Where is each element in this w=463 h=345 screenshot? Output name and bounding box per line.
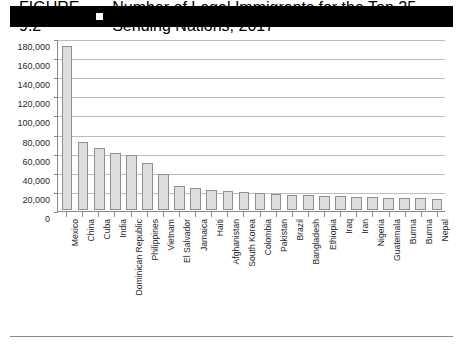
x-tick-slot [284,212,300,217]
y-tick-label: 180,000 [17,42,50,52]
x-label-slot: Colombia [252,219,268,299]
x-tick-mark [276,212,277,217]
bar[interactable] [78,142,89,210]
x-tick-mark [163,212,164,217]
x-tick-slot [74,212,90,217]
x-axis-ticks [58,212,445,217]
x-tick-mark [227,212,228,217]
bar[interactable] [383,198,394,210]
bar-slot [381,40,397,210]
x-tick-slot [252,212,268,217]
bar[interactable] [110,153,121,210]
bar[interactable] [174,186,185,210]
bar[interactable] [158,174,169,210]
x-label-slot: Nigeria [364,219,380,299]
bar[interactable] [399,198,410,210]
bar-series [59,40,445,210]
bar-slot [429,40,445,210]
x-axis-labels: MexicoChinaCubaIndiaDominican RepublicPh… [58,219,445,299]
bar-slot [284,40,300,210]
x-tick-slot [413,212,429,217]
x-label-slot: Philippines [139,219,155,299]
x-label-slot: Pakistan [268,219,284,299]
bar[interactable] [367,197,378,210]
bar-slot [332,40,348,210]
x-label-slot: Afghanistan [219,219,235,299]
x-label-slot: Jamaica [187,219,203,299]
x-label-slot: Vietnam [155,219,171,299]
x-tick-mark [179,212,180,217]
bar[interactable] [351,197,362,210]
bar[interactable] [255,193,266,210]
bar[interactable] [415,198,426,210]
x-label-slot: India [106,219,122,299]
bar-slot [220,40,236,210]
bar-slot [91,40,107,210]
x-tick-slot [300,212,316,217]
bar[interactable] [223,191,234,210]
y-tick-mark [54,174,58,175]
x-tick-slot [268,212,284,217]
bar[interactable] [239,192,250,210]
x-tick-label: Nepal [440,219,450,241]
x-tick-slot [429,212,445,217]
x-tick-slot [171,212,187,217]
bar-slot [300,40,316,210]
x-tick-mark [131,212,132,217]
bar[interactable] [206,190,217,210]
bar[interactable] [319,196,330,210]
x-tick-mark [260,212,261,217]
y-tick-label: 20,000 [22,195,50,205]
x-tick-slot [235,212,251,217]
bar-slot [188,40,204,210]
y-tick-mark [54,97,58,98]
figure-label: FIGURE 9.2 [19,0,82,35]
bar[interactable] [271,194,282,210]
x-label-slot: Ethiopia [316,219,332,299]
bar-slot [397,40,413,210]
x-label-slot: Nepal [429,219,445,299]
x-tick-slot [106,212,122,217]
x-label-slot: Iraq [332,219,348,299]
x-tick-slot [203,212,219,217]
bar[interactable] [287,195,298,210]
bar-slot [75,40,91,210]
x-tick-slot [332,212,348,217]
x-label-slot: Mexico [58,219,74,299]
x-label-slot: Iran [348,219,364,299]
x-tick-mark [389,212,390,217]
bar-slot [204,40,220,210]
bar[interactable] [62,46,73,210]
bar-slot [268,40,284,210]
y-tick-mark [54,78,58,79]
y-tick-mark [54,59,58,60]
bar[interactable] [94,148,105,210]
plot-wrapper [57,40,445,212]
bar-slot [364,40,380,210]
bar-slot [59,40,75,210]
plot-area [57,40,445,212]
figure-header: FIGURE 9.2 Number of Legal Immigrants fo… [10,6,453,27]
x-tick-mark [243,212,244,217]
footer-divider [10,336,453,337]
page-title: Number of Legal Immigrants for the Top 2… [112,0,453,35]
bar-slot [172,40,188,210]
y-tick-label: 100,000 [17,118,50,128]
bar[interactable] [303,195,314,210]
bar[interactable] [126,155,137,210]
bar[interactable] [335,196,346,210]
bar-slot [413,40,429,210]
bar[interactable] [432,199,443,210]
y-tick-mark [54,193,58,194]
bar[interactable] [190,188,201,210]
x-tick-mark [356,212,357,217]
x-tick-slot [219,212,235,217]
x-tick-slot [90,212,106,217]
bar-slot [316,40,332,210]
bar[interactable] [142,163,153,210]
x-label-slot: Dominican Republic [123,219,139,299]
x-tick-mark [308,212,309,217]
x-label-slot: Cuba [90,219,106,299]
bar-slot [107,40,123,210]
x-label-slot: El Salvador [171,219,187,299]
